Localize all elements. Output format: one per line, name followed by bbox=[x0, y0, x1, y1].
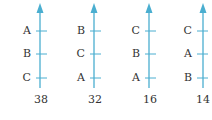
rank-3-label: B bbox=[178, 72, 192, 84]
voter-count: 38 bbox=[29, 94, 53, 106]
ballot-column-1: A B C 38 bbox=[16, 0, 66, 120]
voter-count: 16 bbox=[138, 94, 162, 106]
voter-count: 32 bbox=[83, 94, 107, 106]
ballot-column-3: C B A 16 bbox=[125, 0, 175, 120]
voter-count: 14 bbox=[191, 94, 212, 106]
rank-1-label: B bbox=[71, 25, 85, 37]
rank-2-label: B bbox=[17, 48, 31, 60]
rank-1-label: C bbox=[178, 25, 192, 37]
rank-2-label: C bbox=[71, 48, 85, 60]
rank-3-label: C bbox=[17, 72, 31, 84]
rank-1-label: C bbox=[126, 25, 140, 37]
ballot-column-2: B C A 32 bbox=[70, 0, 120, 120]
rank-3-label: A bbox=[71, 72, 85, 84]
rank-3-label: A bbox=[126, 72, 140, 84]
rank-2-label: A bbox=[178, 48, 192, 60]
ballot-column-4: C A B 14 bbox=[179, 0, 212, 120]
rank-2-label: B bbox=[126, 48, 140, 60]
rank-1-label: A bbox=[17, 25, 31, 37]
